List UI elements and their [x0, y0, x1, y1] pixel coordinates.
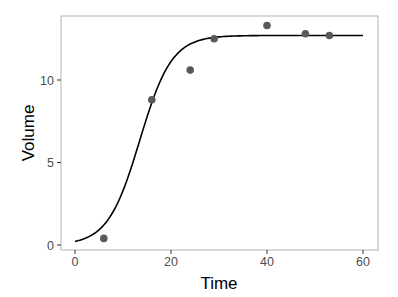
x-tick-label: 20: [164, 255, 178, 269]
data-point: [326, 32, 334, 40]
y-axis: 0510: [40, 74, 61, 253]
data-point: [263, 22, 271, 30]
y-axis-title: Volume: [19, 105, 38, 162]
plot-panel: [61, 16, 378, 250]
data-point: [210, 35, 218, 43]
y-tick-label: 5: [47, 156, 54, 170]
data-point: [302, 30, 310, 38]
x-tick-label: 60: [356, 255, 370, 269]
y-tick-label: 0: [47, 239, 54, 253]
chart: 0204060 0510 Time Volume: [0, 0, 398, 297]
y-tick-label: 10: [40, 74, 54, 88]
data-point: [100, 235, 108, 243]
data-point: [186, 66, 194, 74]
x-axis: 0204060: [72, 250, 370, 269]
x-tick-label: 40: [260, 255, 274, 269]
x-axis-title: Time: [200, 274, 237, 293]
data-point: [148, 96, 156, 104]
x-tick-label: 0: [72, 255, 79, 269]
